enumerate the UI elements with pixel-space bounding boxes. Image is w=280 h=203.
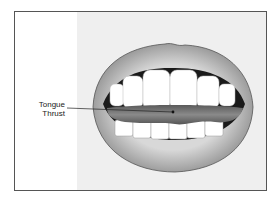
- diagram-frame: Tongue Thrust: [14, 11, 267, 191]
- label-line-2: Thrust: [25, 109, 65, 118]
- label-line-1: Tongue: [25, 100, 65, 109]
- tongue: [107, 105, 243, 124]
- tongue-thrust-label: Tongue Thrust: [25, 100, 65, 118]
